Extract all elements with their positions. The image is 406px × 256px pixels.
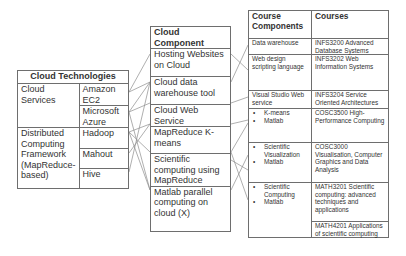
course-component-web-design: Web design scripting language [249, 55, 312, 91]
tech-hadoop: Hadoop [79, 128, 128, 149]
header-course-components: Course Components [249, 11, 312, 39]
tech-microsoft-azure: Microsoft Azure [79, 106, 128, 128]
cloud-technologies-table: Cloud Technologies Cloud Services Amazon… [17, 70, 129, 189]
bullet-item: Matlab [252, 158, 308, 166]
course-infs3202: INFS3202 Web Information Systems [312, 55, 389, 91]
component-scientific-computing: Scientific computing using MapReduce [151, 154, 231, 187]
cloud-component-title: Cloud Component [151, 27, 231, 49]
courses-table: Course Components Courses Data warehouse… [248, 10, 389, 238]
group-distributed-computing: Distributed Computing Framework (MapRedu… [18, 128, 80, 189]
component-cloud-data-warehouse: Cloud data warehouse tool [151, 77, 231, 105]
tech-mahout: Mahout [79, 149, 128, 169]
cloud-technologies-title: Cloud Technologies [18, 71, 129, 84]
tech-hive: Hive [79, 169, 128, 189]
header-courses: Courses [312, 11, 389, 39]
course-infs3204: INFS3204 Service Oriented Architectures [312, 91, 389, 109]
group-cloud-services: Cloud Services [18, 84, 80, 128]
course-component-scientific-visualization: Scientific Visualization Matlab [249, 143, 312, 183]
component-matlab-parallel: Matlab parallel computing on cloud (X) [151, 186, 231, 231]
component-hosting-websites: Hosting Websites on Cloud [151, 49, 231, 77]
course-component-scientific-computing: Scientific Computing Matlab [249, 183, 312, 238]
course-cosc3000: COSC3000 Visualisation, Computer Graphic… [312, 143, 389, 183]
bullet-item: Matlab [252, 198, 308, 206]
tech-amazon-ec2: Amazon EC2 [79, 84, 128, 106]
component-cloud-web-service: Cloud Web Service [151, 105, 231, 127]
course-component-visual-studio: Visual Studio Web service [249, 91, 312, 109]
course-math3201: MATH3201 Scientific computing: advanced … [312, 183, 389, 222]
bullet-item: Matlab [252, 117, 308, 125]
bullet-item: K-means [252, 109, 308, 117]
cloud-component-table: Cloud Component Hosting Websites on Clou… [150, 26, 231, 232]
bullet-item: Scientific Computing [252, 183, 308, 198]
component-mapreduce-kmeans: MapReduce K-means [151, 127, 231, 154]
course-math4201: MATH4201 Applications of scientific comp… [312, 222, 389, 238]
course-cosc3500: COSC3500 High-Performance Computing [312, 109, 389, 143]
course-component-data-warehouse: Data warehouse [249, 39, 312, 55]
course-component-kmeans-matlab: K-means Matlab [249, 109, 312, 143]
course-infs3200: INFS3200 Advanced Database Systems [312, 39, 389, 55]
bullet-item: Scientific Visualization [252, 143, 308, 158]
